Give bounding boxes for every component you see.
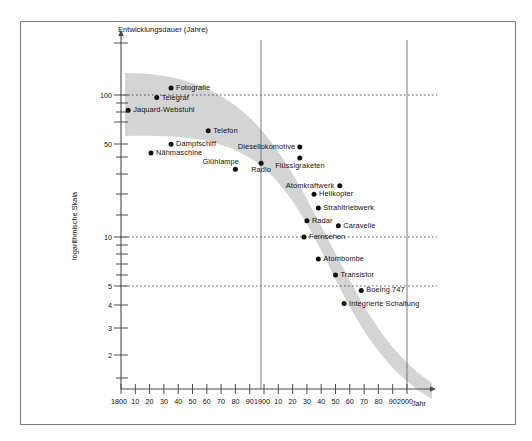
x-axis-ticks <box>121 384 407 394</box>
data-point-label: Caravelle <box>343 221 375 230</box>
x-tick-label: 60 <box>346 397 354 406</box>
data-point[interactable] <box>126 108 131 113</box>
x-tick-label: 90 <box>246 397 254 406</box>
x-tick-label: 50 <box>189 397 197 406</box>
data-point[interactable] <box>169 142 174 147</box>
data-point-label: Boeing 747 <box>366 285 404 294</box>
x-tick-label: 70 <box>217 397 225 406</box>
y-tick-label: 10 <box>100 233 112 242</box>
x-tick-label: 40 <box>174 397 182 406</box>
y-tick-label: 3 <box>104 324 112 333</box>
y-tick-label: 4 <box>104 301 112 310</box>
data-point-label: Helikopter <box>319 189 353 198</box>
x-axis-arrow-icon <box>430 386 436 392</box>
data-point-label: Glühlampe <box>202 157 239 166</box>
data-point-label: Telefon <box>213 126 238 135</box>
x-tick-label: 80 <box>374 397 382 406</box>
data-point[interactable] <box>359 288 364 293</box>
data-point-label: Telegraf <box>162 93 189 102</box>
data-point[interactable] <box>206 128 211 133</box>
data-point-label: Dampfschiff <box>176 139 216 148</box>
data-point[interactable] <box>337 183 342 188</box>
x-tick-label: 10 <box>274 397 282 406</box>
x-tick-label: 90 <box>389 397 397 406</box>
data-point[interactable] <box>302 235 307 240</box>
x-tick-label: 20 <box>146 397 154 406</box>
data-point[interactable] <box>316 256 321 261</box>
data-point-label: Strahltriebwerk <box>323 203 374 212</box>
x-tick-label: 30 <box>160 397 168 406</box>
x-tick-label: 10 <box>131 397 139 406</box>
data-point[interactable] <box>169 86 174 91</box>
data-point[interactable] <box>154 95 159 100</box>
data-point-label: Fotografie <box>176 83 210 92</box>
chart-plot <box>0 0 532 441</box>
data-point-label: Flüssigraketen <box>275 161 324 170</box>
x-tick-label: 60 <box>203 397 211 406</box>
data-point[interactable] <box>333 273 338 278</box>
x-tick-label: 20 <box>289 397 297 406</box>
data-point[interactable] <box>342 301 347 306</box>
data-point[interactable] <box>233 167 238 172</box>
x-tick-label: 50 <box>332 397 340 406</box>
data-point-label: Radio <box>251 165 271 174</box>
x-tick-label: 40 <box>317 397 325 406</box>
y-tick-label: 2 <box>104 351 112 360</box>
data-point-label: Jaquard-Webstuhl <box>133 105 194 114</box>
x-tick-label: 80 <box>231 397 239 406</box>
data-point[interactable] <box>149 151 154 156</box>
data-point-label: Transistor <box>341 270 375 279</box>
data-point-label: Radar <box>312 216 333 225</box>
data-point[interactable] <box>312 192 317 197</box>
data-point[interactable] <box>316 206 321 211</box>
data-point-label: Fernsehen <box>309 232 345 241</box>
x-axis-title: Jahr <box>412 399 426 408</box>
x-tick-label: 70 <box>360 397 368 406</box>
y-axis-title: logarithmische Skala <box>70 192 79 260</box>
x-tick-label: 1900 <box>254 397 270 406</box>
trend-band-shape <box>125 73 432 399</box>
data-point-label: Nähmaschine <box>156 148 202 157</box>
y-tick-label: 5 <box>104 282 112 291</box>
x-tick-label: 2000 <box>397 397 413 406</box>
data-point-label: Integrierte Schaltung <box>349 299 419 308</box>
x-tick-label: 1800 <box>111 397 127 406</box>
chart-title: Entwicklungsdauer (Jahre) <box>118 25 208 34</box>
x-tick-label: 30 <box>303 397 311 406</box>
data-point[interactable] <box>336 223 341 228</box>
data-point-label: Atombombe <box>323 254 364 263</box>
data-point-label: Diesellokomotive <box>238 142 295 151</box>
y-tick-label: 100 <box>96 91 112 100</box>
data-point[interactable] <box>297 156 302 161</box>
data-point[interactable] <box>297 145 302 150</box>
data-point[interactable] <box>304 218 309 223</box>
y-tick-label: 50 <box>100 140 112 149</box>
